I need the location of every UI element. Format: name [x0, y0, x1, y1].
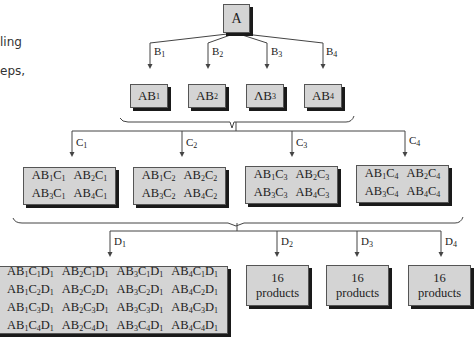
node-abcd1-expanded: AB1C1D1AB2C1D1AB3C1D1AB4C1D1 AB1C2D1AB2C…: [0, 266, 228, 334]
branch-label-c4: C4: [409, 134, 420, 148]
branch-label-c3: C3: [296, 136, 307, 150]
branch-label-d1: D1: [114, 235, 126, 249]
branch-label-b2: B2: [212, 45, 223, 59]
node-abc3-group: AB1C3AB2C3 AB3C3AB4C3: [245, 166, 338, 204]
node-ab1: AB1: [130, 84, 168, 108]
node-abc4-group: AB1C4AB2C4 AB3C4AB4C4: [356, 165, 449, 203]
node-abc1-group: AB1C1AB2C1 AB3C1AB4C1: [23, 167, 116, 205]
node-ab4: AB4: [304, 84, 342, 108]
branch-label-d2: D2: [281, 235, 293, 249]
node-ab2: AB2: [188, 84, 226, 108]
node-ab3: ΛB3: [246, 84, 284, 108]
branch-label-c1: C1: [76, 136, 87, 150]
branch-label-b1: B1: [154, 45, 165, 59]
branch-label-d4: D4: [445, 235, 457, 249]
root-node-a: A: [223, 4, 250, 33]
node-d4-products: 16products: [408, 265, 471, 306]
branch-label-c2: C2: [186, 136, 197, 150]
node-d3-products: 16products: [326, 265, 389, 306]
node-d2-products: 16products: [246, 265, 309, 306]
branch-label-d3: D3: [361, 235, 373, 249]
branch-label-b4: B4: [326, 45, 337, 59]
node-abc2-group: AB1C2AB2C2 AB3C2AB4C2: [133, 167, 226, 205]
branch-label-b3: B3: [271, 45, 282, 59]
root-label: A: [231, 11, 241, 27]
